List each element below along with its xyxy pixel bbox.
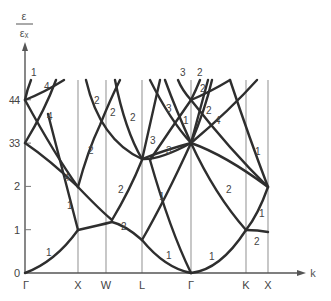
y-tick-4: 4 [14, 94, 20, 106]
deg-label: 1 [31, 67, 37, 78]
deg-label: 3 [9, 138, 15, 149]
deg-label: 2 [200, 83, 206, 94]
deg-label: 2 [254, 236, 260, 247]
deg-label: 2 [94, 95, 100, 106]
y-tick-1: 1 [14, 224, 20, 236]
deg-label: 3 [166, 145, 172, 156]
x-axis-arrow-icon [297, 270, 306, 276]
deg-label: 2 [110, 107, 116, 118]
y-label-numerator: ε [22, 10, 27, 22]
x-label-Gamma2: Γ [188, 279, 194, 291]
deg-label: 1 [183, 115, 189, 126]
y-axis-arrow-icon [22, 42, 28, 51]
deg-label: 2 [226, 184, 232, 195]
band-XW-2a [78, 187, 112, 220]
x-tick-labels: Γ X W L Γ K X k [23, 267, 316, 291]
x-label-Gamma: Γ [23, 279, 29, 291]
x-label-L: L [139, 279, 145, 291]
x-label-W: W [101, 279, 112, 291]
deg-label: 3 [150, 135, 156, 146]
band-KX-2 [246, 230, 268, 232]
deg-label: 4 [64, 172, 70, 183]
y-tick-3: 3 [14, 137, 20, 149]
y-label-denominator: εₓ [20, 27, 29, 39]
deg-label: 2 [197, 67, 203, 78]
deg-label: 2 [130, 112, 136, 123]
deg-label: 1 [255, 146, 261, 157]
band-WL-2b [115, 80, 142, 159]
band-GK-top [230, 80, 268, 187]
degeneracy-labels: 1 4 4 4 4 3 1 1 2 2 2 2 2 2 3 3 3 1 1 1 … [9, 67, 265, 262]
deg-label: 4 [9, 95, 15, 106]
band-GK-1 [191, 230, 246, 273]
deg-label: 1 [46, 247, 52, 258]
deg-label: 4 [47, 111, 53, 122]
band-structure-diagram: ε εₓ 0 1 2 3 4 Γ X W L Γ K X [0, 0, 331, 301]
deg-label: 1 [159, 191, 165, 202]
band-XWL-low [78, 222, 142, 240]
deg-label: 4 [215, 115, 221, 126]
deg-label: 2 [206, 105, 212, 116]
x-label-K: K [242, 279, 250, 291]
deg-label: 1 [166, 250, 172, 261]
axes [22, 42, 306, 276]
deg-label: 1 [259, 208, 265, 219]
x-label-X2: X [264, 279, 272, 291]
deg-label: 2 [88, 145, 94, 156]
band-GX-4near [25, 143, 78, 187]
x-label-X: X [74, 279, 82, 291]
band-curves [25, 80, 268, 273]
band-G-3top [178, 80, 191, 100]
deg-label: 2 [118, 184, 124, 195]
band-KX-1 [246, 187, 268, 230]
deg-label: 4 [44, 81, 50, 92]
deg-label: 1 [67, 200, 73, 211]
x-axis-label: k [310, 267, 316, 279]
deg-label: 1 [209, 251, 215, 262]
y-axis-label: ε εₓ [16, 10, 33, 39]
y-tick-labels: 0 1 2 3 4 [14, 94, 20, 279]
deg-label: 3 [166, 103, 172, 114]
deg-label: 3 [180, 67, 186, 78]
deg-label: 2 [121, 221, 127, 232]
y-tick-0: 0 [14, 267, 20, 279]
y-tick-2: 2 [14, 180, 20, 192]
